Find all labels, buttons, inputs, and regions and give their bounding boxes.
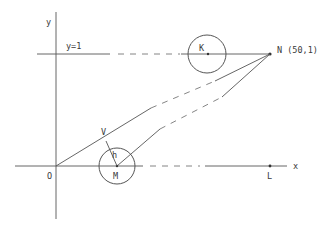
point-l-label: L (267, 171, 272, 181)
line-m-to-n (117, 54, 270, 166)
point-n-label: N (50,1) (277, 45, 318, 55)
point-m-label: M (113, 171, 118, 181)
y-axis-label: y (46, 17, 51, 27)
point-k-label: K (199, 43, 205, 53)
x-axis-label: x (293, 161, 298, 171)
point-v-label: V (101, 127, 106, 137)
line-o-to-n (56, 54, 270, 166)
reference-line-label: y=1 (66, 41, 81, 51)
point-k (207, 53, 209, 55)
geometry-diagram: y x O y=1 K N (50,1) (0, 0, 331, 234)
perpendicular-h-label: h (112, 150, 117, 160)
origin-label: O (47, 171, 52, 181)
point-l (269, 165, 272, 168)
